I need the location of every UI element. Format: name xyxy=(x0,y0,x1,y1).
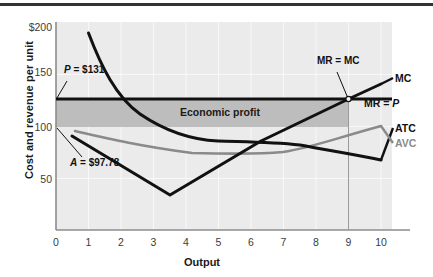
x-axis-title: Output xyxy=(56,256,348,268)
x-tick-0: 0 xyxy=(45,236,67,248)
x-tick-9: 9 xyxy=(338,236,360,248)
x-tick-10: 10 xyxy=(370,236,392,248)
atc-point-annotation: A = $97.78 xyxy=(70,157,119,168)
y-tick-100: 100 xyxy=(8,121,52,133)
price-annotation-symbol: P xyxy=(64,64,71,75)
atc-point-annotation-value: = $97.78 xyxy=(77,157,119,168)
mr-mc-intersection-marker xyxy=(346,96,351,101)
price-annotation: P = $131 xyxy=(64,64,104,75)
price-annotation-value: = $131 xyxy=(71,64,105,75)
x-tick-4: 4 xyxy=(175,236,197,248)
x-tick-2: 2 xyxy=(110,236,132,248)
x-tick-5: 5 xyxy=(208,236,230,248)
x-tick-8: 8 xyxy=(305,236,327,248)
economics-chart-figure: Cost and revenue per unit Output $200 15… xyxy=(0,0,433,277)
mr-equals-price-label-symbol: P xyxy=(392,97,399,109)
atc-curve-label: ATC xyxy=(395,122,416,134)
y-tick-200: $200 xyxy=(8,21,52,33)
y-tick-50: 50 xyxy=(8,173,52,185)
x-tick-7: 7 xyxy=(273,236,295,248)
avc-curve-label: AVC xyxy=(395,137,416,149)
mr-equals-price-label-prefix: MR = xyxy=(364,97,392,109)
mr-mc-annotation: MR = MC xyxy=(317,55,360,66)
y-axis-title: Cost and revenue per unit xyxy=(23,25,35,195)
y-tick-150: 150 xyxy=(8,66,52,78)
x-tick-6: 6 xyxy=(240,236,262,248)
x-tick-3: 3 xyxy=(143,236,165,248)
mr-equals-price-label: MR = P xyxy=(364,97,399,109)
x-tick-1: 1 xyxy=(78,236,100,248)
mc-curve-label: MC xyxy=(395,72,411,84)
economic-profit-label: Economic profit xyxy=(180,106,260,118)
